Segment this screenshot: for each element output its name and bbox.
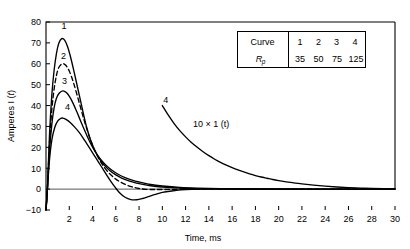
y-tick-50: 50	[31, 80, 41, 90]
x-tick-22: 22	[297, 214, 307, 224]
y-tick-60: 60	[31, 59, 41, 69]
x-tick-2: 2	[67, 214, 72, 224]
x-tick-16: 16	[227, 214, 237, 224]
x-tick-18: 18	[250, 214, 260, 224]
table-curve-2: 2	[316, 37, 321, 47]
y-tick-10: 10	[31, 164, 41, 174]
y-axis-title: Amperes I (t)	[6, 90, 16, 142]
table-label-curve: Curve	[250, 37, 274, 47]
table-rp-4: 125	[348, 54, 363, 64]
x-tick-12: 12	[181, 214, 191, 224]
x-tick-24: 24	[320, 214, 330, 224]
table-label-rp-subscript: p	[261, 58, 266, 66]
y-tick--10: −10	[26, 205, 41, 215]
curve-label-1: 1	[62, 21, 67, 31]
y-tick-70: 70	[31, 38, 41, 48]
magnified-curve-label: 4	[163, 95, 168, 105]
x-tick-10: 10	[157, 214, 167, 224]
table-curve-4: 4	[352, 37, 357, 47]
curve-label-4: 4	[65, 102, 70, 112]
x-axis-title: Time, ms	[185, 233, 222, 243]
x-tick-14: 14	[204, 214, 214, 224]
chart-figure: 24681012141618202224262830−1001020304050…	[0, 0, 410, 249]
table-rp-1: 35	[295, 54, 305, 64]
y-tick-80: 80	[31, 17, 41, 27]
y-tick-30: 30	[31, 122, 41, 132]
x-tick-4: 4	[90, 214, 95, 224]
parameter-table: Curve R p 1 2 3 4 35 50 75 125	[238, 32, 366, 68]
x-tick-26: 26	[343, 214, 353, 224]
x-tick-28: 28	[367, 214, 377, 224]
table-curve-3: 3	[334, 37, 339, 47]
table-curve-1: 1	[297, 37, 302, 47]
table-rp-2: 50	[313, 54, 323, 64]
transient-current-plot: 24681012141618202224262830−1001020304050…	[0, 0, 410, 249]
x-tick-20: 20	[274, 214, 284, 224]
y-axis-title-main: Amperes I (	[6, 96, 16, 143]
table-rp-3: 75	[332, 54, 342, 64]
curve-label-2: 2	[61, 51, 66, 61]
x-tick-6: 6	[113, 214, 118, 224]
y-tick-20: 20	[31, 143, 41, 153]
y-tick-0: 0	[36, 184, 41, 194]
y-tick-40: 40	[31, 101, 41, 111]
x-tick-8: 8	[137, 214, 142, 224]
curve-label-3: 3	[62, 76, 67, 86]
magnification-note: 10 × 1 (t)	[193, 119, 229, 129]
y-axis-title-end: )	[6, 90, 16, 93]
x-tick-30: 30	[390, 214, 400, 224]
